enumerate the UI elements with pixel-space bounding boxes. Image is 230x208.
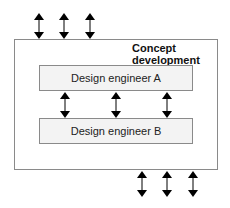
bidirectional-arrow-icon	[111, 92, 121, 118]
bidirectional-arrow-icon	[85, 13, 95, 39]
engineer-exchange-arrows	[60, 92, 172, 118]
bidirectional-arrow-icon	[59, 13, 69, 39]
bidirectional-arrow-icon	[34, 13, 44, 39]
bidirectional-arrow-icon	[162, 92, 172, 118]
bidirectional-arrow-icon	[162, 171, 172, 197]
bidirectional-arrow-icon	[60, 92, 70, 118]
bidirectional-arrow-icon	[137, 171, 147, 197]
arrows-layer	[0, 0, 230, 208]
top-external-arrows	[34, 13, 95, 39]
bottom-external-arrows	[137, 171, 198, 197]
bidirectional-arrow-icon	[188, 171, 198, 197]
